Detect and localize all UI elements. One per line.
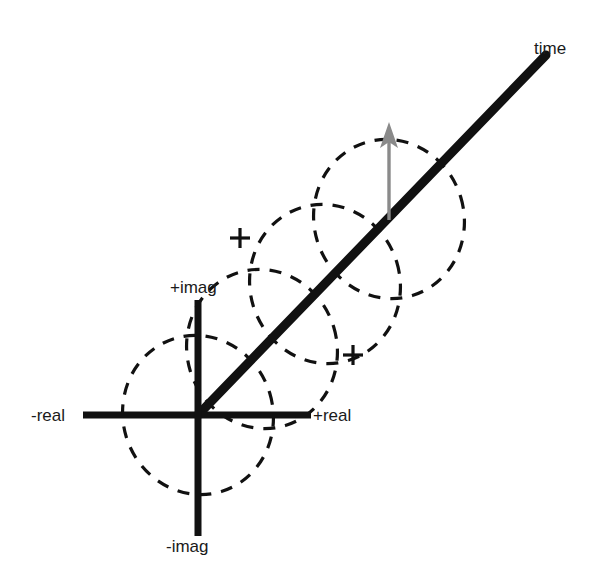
- diagram-canvas: time +imag -imag +real -real: [0, 0, 604, 582]
- label-minus-real: -real: [31, 406, 65, 425]
- label-plus-imag: +imag: [170, 278, 217, 297]
- label-minus-imag: -imag: [166, 537, 209, 556]
- time-axis-line: [198, 55, 546, 415]
- label-time: time: [534, 39, 566, 58]
- label-plus-real: +real: [313, 406, 351, 425]
- complex-phasor-diagram: time +imag -imag +real -real: [0, 0, 604, 582]
